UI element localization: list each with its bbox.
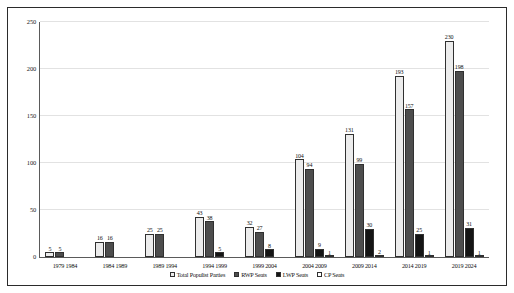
bar[interactable]	[45, 252, 54, 257]
bar-value-label: 1	[478, 250, 481, 256]
bar-value-label: 25	[157, 227, 163, 233]
bar-slot: 16	[105, 22, 114, 257]
bar-value-label: 2	[378, 249, 381, 255]
y-axis-tick-label: 150	[27, 112, 36, 119]
legend-label: LWP Seats	[283, 271, 308, 278]
bar[interactable]	[455, 71, 464, 257]
bar[interactable]	[195, 217, 204, 257]
bar-value-label: 157	[405, 103, 413, 109]
bar-slot: 1	[325, 22, 334, 257]
bar-group: 10494912004 2009	[289, 22, 339, 257]
bar-slot: 94	[305, 22, 314, 257]
bar-slot	[275, 22, 284, 257]
bar-value-label: 131	[345, 127, 353, 133]
bar-slot: 104	[295, 22, 304, 257]
chart-legend: Total Populist PartiesRWP SeatsLWP Seats…	[8, 271, 506, 278]
bar-slot: 31	[465, 22, 474, 257]
bar-slot	[165, 22, 174, 257]
bar-value-label: 31	[466, 221, 472, 227]
bar-slot: 8	[265, 22, 274, 257]
dark-gray-swatch	[234, 272, 239, 277]
legend-item[interactable]: CP Seats	[317, 271, 344, 278]
bar[interactable]	[345, 134, 354, 257]
legend-label: CP Seats	[324, 271, 344, 278]
bar-slot: 5	[215, 22, 224, 257]
y-axis-tick-label: 0	[33, 253, 36, 260]
bar-slot: 25	[155, 22, 164, 257]
bar-slot	[115, 22, 124, 257]
bar[interactable]	[205, 221, 214, 257]
plot-area: 050100150200250 551979 198416161984 1989…	[39, 22, 489, 258]
bar-slot: 1	[475, 22, 484, 257]
bar-value-label: 8	[268, 243, 271, 249]
bar-slot: 9	[315, 22, 324, 257]
bar-slot: 198	[455, 22, 464, 257]
bar-slot: 2	[375, 22, 384, 257]
bar-slot: 157	[405, 22, 414, 257]
bar[interactable]	[265, 249, 274, 257]
bar-value-label: 32	[247, 220, 253, 226]
bar-value-label: 1	[328, 250, 331, 256]
bar[interactable]	[55, 252, 64, 257]
bar[interactable]	[215, 252, 224, 257]
bar[interactable]	[365, 229, 374, 257]
bar[interactable]	[445, 41, 454, 257]
bar-value-label: 94	[307, 162, 313, 168]
bar[interactable]	[305, 169, 314, 257]
bar[interactable]	[415, 234, 424, 258]
bar-slot	[75, 22, 84, 257]
bar[interactable]	[105, 242, 114, 257]
bar-value-label: 16	[107, 235, 113, 241]
black-swatch	[276, 272, 281, 277]
bar[interactable]	[155, 234, 164, 258]
bar[interactable]	[145, 234, 154, 258]
bar-value-label: 9	[318, 242, 321, 248]
bar-slot: 16	[95, 22, 104, 257]
x-axis-tick-label: 1984 1989	[103, 262, 128, 269]
legend-item[interactable]: Total Populist Parties	[170, 271, 225, 278]
bar-slot: 230	[445, 22, 454, 257]
bar-value-label: 193	[395, 69, 403, 75]
bar-value-label: 99	[356, 157, 362, 163]
bar-slot: 30	[365, 22, 374, 257]
bar-value-label: 198	[455, 64, 463, 70]
bar[interactable]	[355, 164, 364, 257]
x-axis-tick-label: 1999 2004	[252, 262, 277, 269]
y-axis-tick-label: 250	[27, 18, 36, 25]
bar[interactable]	[95, 242, 104, 257]
bar-group: 551979 1984	[40, 22, 90, 257]
bar-slot: 5	[55, 22, 64, 257]
bar-value-label: 25	[416, 227, 422, 233]
legend-item[interactable]: LWP Seats	[276, 271, 308, 278]
bar[interactable]	[315, 249, 324, 257]
bar-group: 131993022009 2014	[339, 22, 389, 257]
bar-slot: 32	[245, 22, 254, 257]
bar-value-label: 1	[428, 250, 431, 256]
bar-slot: 38	[205, 22, 214, 257]
y-axis-tick-label: 200	[27, 65, 36, 72]
bar-group: 16161984 1989	[90, 22, 140, 257]
bar-slot: 25	[145, 22, 154, 257]
bar-slot: 131	[345, 22, 354, 257]
bar[interactable]	[405, 109, 414, 257]
bar[interactable]	[465, 228, 474, 257]
bar[interactable]	[245, 227, 254, 257]
bar-slot	[175, 22, 184, 257]
bar-value-label: 230	[445, 34, 453, 40]
bar-slot	[225, 22, 234, 257]
y-axis-tick-label: 50	[30, 206, 36, 213]
x-axis-tick-label: 1979 1984	[53, 262, 78, 269]
bar[interactable]	[375, 255, 384, 257]
legend-item[interactable]: RWP Seats	[234, 271, 267, 278]
chart-frame: 050100150200250 551979 198416161984 1989…	[7, 7, 507, 286]
bar[interactable]	[395, 76, 404, 257]
legend-label: RWP Seats	[241, 271, 267, 278]
bar-slot: 5	[45, 22, 54, 257]
bar-slot: 193	[395, 22, 404, 257]
x-axis-tick-label: 2009 2014	[352, 262, 377, 269]
bar-value-label: 38	[207, 215, 213, 221]
bar[interactable]	[255, 232, 264, 257]
bar-group: 433851994 1999	[190, 22, 240, 257]
bar[interactable]	[295, 159, 304, 257]
bar-slot	[65, 22, 74, 257]
